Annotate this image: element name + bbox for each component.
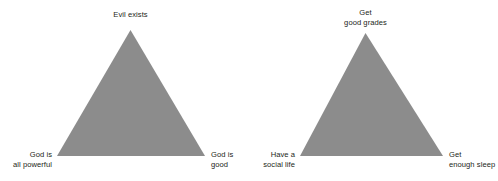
- apex-label-line-1: Get: [344, 8, 387, 18]
- bottom-left-label-line-1: Have a: [263, 150, 295, 160]
- bottom-right-label: Get enough sleep: [449, 150, 495, 169]
- bottom-right-label-line-2: enough sleep: [449, 160, 495, 170]
- bottom-right-label-line-1: God is: [211, 150, 233, 160]
- diagram-student-trilemma: Get good grades Have a social life Get e…: [249, 0, 498, 181]
- bottom-left-label: Have a social life: [263, 150, 295, 169]
- diagram-problem-of-evil-trilemma: Evil exists God is all powerful God is g…: [0, 0, 249, 181]
- apex-label: Evil exists: [113, 10, 147, 20]
- bottom-right-label: God is good: [211, 150, 233, 169]
- apex-label-line-2: good grades: [344, 18, 387, 28]
- bottom-left-label: God is all powerful: [13, 150, 52, 169]
- trilemma-figure: Evil exists God is all powerful God is g…: [0, 0, 498, 181]
- bottom-right-label-line-2: good: [211, 160, 233, 170]
- apex-label-line-1: Evil exists: [113, 10, 147, 20]
- bottom-left-label-line-2: social life: [263, 160, 295, 170]
- apex-label: Get good grades: [344, 8, 387, 27]
- bottom-right-label-line-1: Get: [449, 150, 495, 160]
- bottom-left-label-line-2: all powerful: [13, 160, 52, 170]
- bottom-left-label-line-1: God is: [13, 150, 52, 160]
